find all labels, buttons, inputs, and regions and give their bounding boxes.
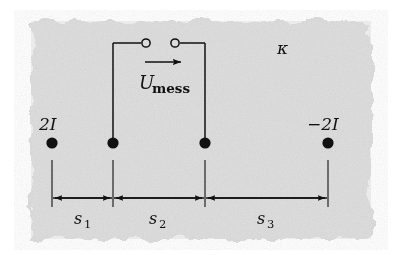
dimension-s2-label: s bbox=[149, 209, 157, 228]
dimension-s3-label: s bbox=[257, 209, 265, 228]
electrode-minus-2I-dot bbox=[322, 137, 333, 148]
terminal-left-icon bbox=[142, 39, 150, 47]
dimension-s2-subscript: 2 bbox=[159, 217, 166, 231]
voltage-label-sub: mess bbox=[152, 80, 190, 96]
conductivity-label: κ bbox=[276, 38, 288, 58]
terminal-right-icon bbox=[171, 39, 179, 47]
dimension-s1-subscript: 1 bbox=[84, 217, 91, 231]
electrode-2I-dot bbox=[46, 137, 57, 148]
figure-container: U mess κ 2I −2I s 1 s 2 s 3 bbox=[0, 0, 398, 255]
source-right-label: −2I bbox=[307, 114, 339, 134]
diagram-canvas: U mess κ 2I −2I s 1 s 2 s 3 bbox=[0, 0, 398, 255]
electrode-probe-1-dot bbox=[107, 137, 118, 148]
electrode-probe-2-dot bbox=[199, 137, 210, 148]
source-left-label: 2I bbox=[38, 114, 57, 134]
dimension-s3-subscript: 3 bbox=[267, 217, 274, 231]
dimension-s1-label: s bbox=[74, 209, 82, 228]
